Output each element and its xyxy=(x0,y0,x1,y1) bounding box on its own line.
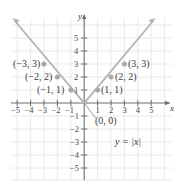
x-tick-label-1: 1 xyxy=(96,106,100,115)
y-tick-label-5: 5 xyxy=(74,34,78,43)
x-tick-label-neg2: −2 xyxy=(52,106,61,115)
y-tick-label-3: 3 xyxy=(74,60,78,69)
y-axis xyxy=(81,14,87,180)
x-tick-label-4: 4 xyxy=(136,106,140,115)
point-label-neg1-1: (−1, 1) xyxy=(37,85,64,95)
y-tick-label-1: 1 xyxy=(74,86,78,95)
point-label-origin: (0, 0) xyxy=(95,116,117,126)
point-label-neg2-2: (−2, 2) xyxy=(25,72,52,82)
point-neg3-3 xyxy=(42,62,47,67)
x-tick-label-5: 5 xyxy=(149,106,153,115)
y-axis-label: y xyxy=(78,12,82,21)
y-tick-label-4: 4 xyxy=(74,47,78,56)
point-label-3-3: (3, 3) xyxy=(128,59,150,69)
point-2-2 xyxy=(109,75,114,80)
point-3-3 xyxy=(122,62,127,67)
point-1-1 xyxy=(95,88,100,93)
y-tick-label-neg1: −1 xyxy=(70,112,79,121)
x-axis-label: x xyxy=(170,104,174,113)
point-label-neg3-3: (−3, 3) xyxy=(13,59,40,69)
x-tick-label-2: 2 xyxy=(109,106,113,115)
y-tick-label-neg5: −5 xyxy=(70,164,79,173)
y-tick-label-neg4: −4 xyxy=(70,151,79,160)
absolute-value-graph-figure: −5 −4 −3 −2 −1 1 2 3 4 5 5 4 3 2 1 −1 −2… xyxy=(0,0,184,193)
y-tick-label-2: 2 xyxy=(74,73,78,82)
x-tick-label-3: 3 xyxy=(122,106,126,115)
y-tick-label-neg3: −3 xyxy=(70,138,79,147)
x-tick-label-neg5: −5 xyxy=(11,106,20,115)
x-tick-label-neg3: −3 xyxy=(38,106,47,115)
grid-lines xyxy=(11,18,172,180)
x-tick-label-neg4: −4 xyxy=(25,106,34,115)
equation-label: y = |x| xyxy=(115,137,141,147)
point-label-1-1: (1, 1) xyxy=(101,85,123,95)
point-label-2-2: (2, 2) xyxy=(115,72,137,82)
coordinate-plane-svg xyxy=(0,0,184,193)
point-neg2-2 xyxy=(55,75,60,80)
point-neg1-1 xyxy=(68,88,73,93)
x-axis xyxy=(11,100,170,106)
y-tick-label-neg2: −2 xyxy=(70,125,79,134)
